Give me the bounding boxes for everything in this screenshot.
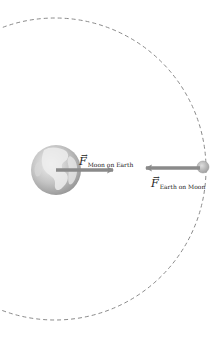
- force-subscript: Moon on Earth: [88, 161, 134, 168]
- force-symbol: → F: [79, 156, 87, 167]
- earth-moon-force-diagram: → F Moon on Earth → F Earth on Moon: [0, 0, 219, 340]
- force-symbol: → F: [151, 178, 159, 189]
- vector-arrow-icon: →: [153, 174, 160, 182]
- force-label-moon-on-earth: → F Moon on Earth: [79, 152, 133, 168]
- diagram-canvas: [0, 0, 219, 340]
- force-subscript: Earth on Moon: [160, 183, 206, 190]
- vector-arrow-icon: →: [81, 152, 88, 160]
- force-label-earth-on-moon: → F Earth on Moon: [151, 174, 205, 190]
